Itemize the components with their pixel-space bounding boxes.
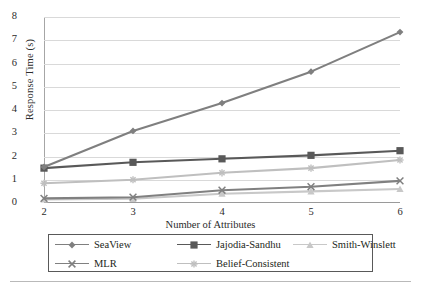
legend-swatch-diamond-icon [55, 239, 89, 251]
plot-area [44, 17, 400, 203]
y-tick-label: 2 [0, 151, 17, 162]
series-layer [44, 17, 400, 203]
y-tick-label: 3 [0, 127, 17, 138]
x-marker [69, 260, 76, 267]
legend-label: Belief-Consistent [216, 258, 290, 269]
star-marker [40, 180, 47, 187]
y-tick-label: 7 [0, 34, 17, 45]
legend-item-mlr[interactable]: MLR [49, 254, 177, 273]
x-tick-label: 6 [388, 206, 412, 217]
square-marker [129, 159, 136, 166]
y-tick-label: 8 [0, 11, 17, 22]
star-marker [307, 165, 314, 172]
legend-item-belief-consistent[interactable]: Belief-Consistent [177, 254, 293, 273]
chart-legend: SeaViewJajodia-SandhuSmith-Winslett MLRB… [48, 234, 373, 272]
legend-swatch-square-icon [177, 239, 211, 251]
legend-label: Jajodia-Sandhu [216, 239, 281, 250]
square-marker [190, 241, 197, 248]
series-line [44, 32, 400, 167]
square-marker [396, 147, 403, 154]
diamond-marker [308, 68, 315, 75]
page-separator-rule [10, 281, 411, 282]
star-marker [396, 156, 403, 163]
triangle-marker [306, 241, 313, 248]
legend-row: SeaViewJajodia-SandhuSmith-Winslett [49, 235, 374, 254]
legend-label: Smith-Winslett [332, 239, 396, 250]
diamond-marker [130, 128, 137, 135]
legend-label: MLR [94, 258, 117, 269]
y-axis-title: Response Time (s) [24, 5, 35, 155]
legend-swatch-star-icon [177, 258, 211, 270]
x-tick-label: 3 [121, 206, 145, 217]
square-marker [307, 152, 314, 159]
legend-item-jajodia-sandhu[interactable]: Jajodia-Sandhu [177, 235, 293, 254]
x-axis-title: Number of Attributes [0, 219, 421, 230]
diamond-marker [397, 29, 404, 36]
y-tick-label: 5 [0, 81, 17, 92]
square-marker [218, 155, 225, 162]
diamond-marker [69, 241, 76, 248]
star-marker [190, 260, 197, 267]
series-smith-winslett [40, 185, 403, 202]
legend-item-smith-winslett[interactable]: Smith-Winslett [293, 235, 374, 254]
legend-swatch-x-icon [55, 258, 89, 270]
series-jajodia-sandhu [40, 147, 403, 172]
y-tick-label: 0 [0, 197, 17, 208]
legend-row: MLRBelief-Consistent [49, 254, 374, 273]
diamond-marker [219, 100, 226, 107]
figure-container: Response Time (s) 012345678 23456 Number… [0, 0, 421, 289]
series-seaview [41, 29, 404, 171]
y-tick-label: 4 [0, 104, 17, 115]
x-tick-label: 5 [299, 206, 323, 217]
star-marker [218, 169, 225, 176]
star-marker [129, 176, 136, 183]
legend-label: SeaView [94, 239, 131, 250]
y-tick-label: 1 [0, 174, 17, 185]
legend-item-seaview[interactable]: SeaView [49, 235, 177, 254]
x-tick-label: 2 [32, 206, 56, 217]
y-tick-label: 6 [0, 58, 17, 69]
legend-swatch-triangle-icon [293, 239, 327, 251]
x-tick-label: 4 [210, 206, 234, 217]
